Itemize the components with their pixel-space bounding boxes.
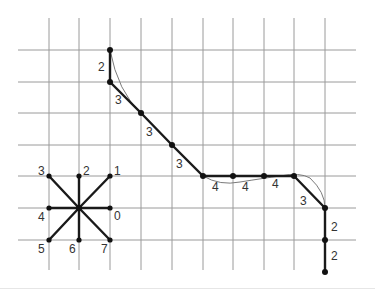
direction-label: 4	[38, 210, 45, 224]
chain-node	[138, 110, 144, 116]
chain-code-label: 2	[331, 220, 338, 234]
direction-endpoint	[46, 205, 51, 210]
legend-center	[76, 205, 82, 211]
chain-code-label: 2	[98, 60, 105, 74]
direction-endpoint	[76, 237, 81, 242]
direction-ray-1	[79, 176, 110, 208]
direction-label: 2	[83, 164, 90, 178]
direction-endpoint	[107, 205, 112, 210]
chain-node	[230, 173, 236, 179]
direction-label: 5	[38, 242, 45, 256]
chain-node	[322, 237, 328, 243]
chain-node	[291, 173, 297, 179]
chain-code-label: 4	[212, 180, 219, 194]
chain-node	[322, 269, 328, 275]
direction-label: 7	[101, 242, 108, 256]
direction-endpoint	[107, 173, 112, 178]
direction-endpoint	[46, 237, 51, 242]
chain-node	[169, 142, 175, 148]
direction-legend: 01234567	[38, 164, 121, 256]
chain-node	[200, 173, 206, 179]
direction-ray-7	[79, 208, 110, 240]
grid	[18, 18, 356, 270]
direction-ray-3	[49, 176, 79, 208]
direction-endpoint	[46, 173, 51, 178]
direction-label: 0	[114, 209, 121, 223]
chain-node	[107, 79, 113, 85]
chain-node	[107, 47, 113, 53]
chain-code-label: 3	[115, 93, 122, 107]
direction-label: 1	[114, 164, 121, 178]
direction-endpoint	[76, 173, 81, 178]
chain-code-label: 3	[146, 125, 153, 139]
direction-endpoint	[107, 237, 112, 242]
direction-label: 6	[69, 242, 76, 256]
direction-ray-5	[49, 208, 79, 240]
bottom-divider	[0, 288, 375, 289]
chain-code-label: 4	[272, 177, 279, 191]
chain-node	[322, 205, 328, 211]
chain-code-label: 3	[300, 194, 307, 208]
chain-code-path: 2333444322	[98, 47, 338, 275]
chain-segment	[294, 176, 325, 208]
boundary-curve	[110, 50, 325, 272]
chain-code-label: 3	[176, 157, 183, 171]
chain-code-label: 4	[242, 180, 249, 194]
chain-code-label: 2	[331, 249, 338, 263]
chain-node	[261, 173, 267, 179]
chain-code-diagram: 01234567 2333444322	[0, 0, 375, 291]
direction-label: 3	[38, 164, 45, 178]
